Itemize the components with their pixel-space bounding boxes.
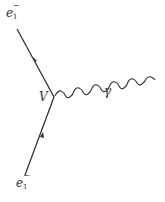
photon-label: γ [104,84,111,98]
particle-label-top: e1− [6,6,18,20]
vertex-label: V [39,90,48,104]
fermion-line-top [17,29,54,97]
particle-label-bottom: e1− [16,176,28,190]
fermion-line-bottom [25,97,54,175]
